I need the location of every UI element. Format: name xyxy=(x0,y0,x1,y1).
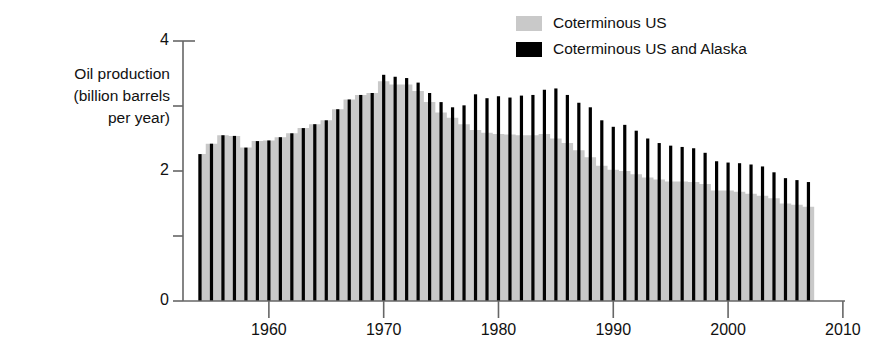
bar-1974 xyxy=(428,93,431,301)
bar-1961 xyxy=(279,137,282,301)
bar-2005 xyxy=(784,178,787,301)
legend-item-coterminous-us: Coterminous US xyxy=(516,12,876,34)
bar-1990 xyxy=(612,127,615,301)
bar-1994 xyxy=(658,143,661,301)
x-tick-label-1990: 1990 xyxy=(583,321,643,339)
y-axis-label-line2: (billion barrels xyxy=(74,87,170,104)
bar-1968 xyxy=(359,95,362,301)
bar-2006 xyxy=(795,180,798,301)
legend-item-coterminous-us-and-alaska: Coterminous US and Alaska xyxy=(516,38,876,60)
bar-1957 xyxy=(233,136,236,301)
bar-1985 xyxy=(554,88,557,301)
oil-production-chart: Oil production(billion barrelsper year) … xyxy=(0,0,889,357)
bar-1980 xyxy=(497,96,500,301)
bar-1975 xyxy=(439,102,442,301)
bar-2001 xyxy=(738,163,741,301)
x-tick-label-1960: 1960 xyxy=(239,321,299,339)
bar-1991 xyxy=(623,125,626,301)
bar-1955 xyxy=(210,144,213,301)
bar-1964 xyxy=(313,124,316,301)
bar-1971 xyxy=(394,77,397,301)
bar-1982 xyxy=(520,96,523,301)
bar-1984 xyxy=(543,90,546,301)
bar-1958 xyxy=(244,148,247,301)
bar-2003 xyxy=(761,166,764,301)
y-axis-label: Oil production(billion barrelsper year) xyxy=(10,63,170,129)
bar-1976 xyxy=(451,107,454,301)
y-tick-label-2: 2 xyxy=(147,161,169,179)
area-coterminous-us xyxy=(194,81,814,301)
bar-1954 xyxy=(198,154,201,301)
y-tick-label-0: 0 xyxy=(147,291,169,309)
bar-1992 xyxy=(635,131,638,301)
x-tick-label-1970: 1970 xyxy=(354,321,414,339)
bar-1998 xyxy=(704,153,707,301)
bar-2007 xyxy=(807,182,810,301)
bar-1987 xyxy=(577,103,580,301)
bar-1973 xyxy=(417,83,420,301)
bar-1963 xyxy=(302,128,305,301)
y-axis-label-line1: Oil production xyxy=(74,65,170,82)
bar-1986 xyxy=(566,95,569,301)
x-tick-label-2000: 2000 xyxy=(698,321,758,339)
bar-1972 xyxy=(405,78,408,301)
x-tick-label-2010: 2010 xyxy=(813,321,873,339)
bar-1978 xyxy=(474,94,477,301)
legend-swatch-coterminous-us-and-alaska xyxy=(516,42,542,57)
bar-1993 xyxy=(646,139,649,302)
legend-label-coterminous-us-and-alaska: Coterminous US and Alaska xyxy=(553,40,747,58)
bar-1959 xyxy=(256,141,259,301)
y-tick-label-4: 4 xyxy=(147,31,169,49)
x-tick-label-1980: 1980 xyxy=(468,321,528,339)
chart-legend: Coterminous US Coterminous US and Alaska xyxy=(516,12,876,64)
bar-2004 xyxy=(772,172,775,301)
bar-1997 xyxy=(692,148,695,301)
legend-label-coterminous-us: Coterminous US xyxy=(553,14,667,32)
bar-1996 xyxy=(681,147,684,301)
bar-1988 xyxy=(589,107,592,301)
y-axis-label-line3: per year) xyxy=(108,109,170,126)
series-coterminous-us-area xyxy=(194,81,814,301)
bar-1966 xyxy=(336,109,339,301)
bar-1981 xyxy=(508,98,511,301)
bar-2002 xyxy=(749,165,752,302)
bar-1989 xyxy=(600,120,603,301)
bar-1977 xyxy=(462,105,465,301)
bar-1956 xyxy=(221,135,224,301)
bar-1967 xyxy=(348,100,351,302)
bar-1969 xyxy=(371,93,374,301)
bar-1999 xyxy=(715,161,718,301)
bar-1970 xyxy=(382,75,385,301)
bar-1995 xyxy=(669,146,672,301)
bar-2000 xyxy=(726,163,729,301)
bar-1965 xyxy=(325,120,328,301)
bar-1960 xyxy=(267,140,270,301)
legend-swatch-coterminous-us xyxy=(516,16,542,31)
bar-1979 xyxy=(485,98,488,301)
bar-1962 xyxy=(290,133,293,301)
bar-1983 xyxy=(531,95,534,301)
